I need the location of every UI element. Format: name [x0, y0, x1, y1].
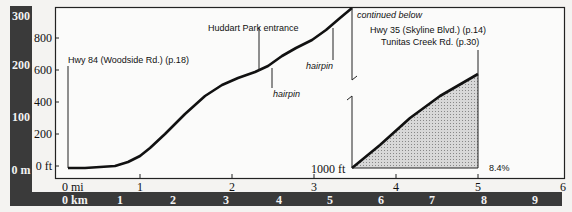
mi-tick-3: 3 [311, 180, 317, 195]
annotation-tunitas: Tunitas Creek Rd. (p.30) [381, 37, 479, 47]
annotation-hwy84: Hwy 84 (Woodside Rd.) (p.18) [68, 55, 189, 65]
mi-tick-1: 1 [137, 180, 143, 195]
ft-tick-400: 400 [12, 95, 52, 110]
annotation-continued: continued below [357, 10, 422, 20]
mi-tick-5: 5 [475, 180, 481, 195]
mi-tick-6: 6 [560, 180, 566, 195]
ft-tick-600: 600 [12, 63, 52, 78]
mi-tick-4: 4 [393, 180, 399, 195]
annotation-1000ft: 1000 ft [311, 162, 345, 177]
annotation-hwy35: Hwy 35 (Skyline Blvd.) (p.14) [370, 25, 486, 35]
annotation-hairpin-2: hairpin [306, 61, 333, 71]
ft-tick-200: 200 [12, 127, 52, 142]
annotation-grade: 8.4% [489, 163, 510, 173]
annotation-hairpin-1: hairpin [273, 89, 300, 99]
ft-tick-800: 800 [12, 31, 52, 46]
mi-tick-0: 0 mi [62, 180, 84, 195]
ft-tick-0: 0 ft [12, 159, 52, 174]
annotation-huddart: Huddart Park entrance [208, 23, 299, 33]
mi-tick-2: 2 [229, 180, 235, 195]
